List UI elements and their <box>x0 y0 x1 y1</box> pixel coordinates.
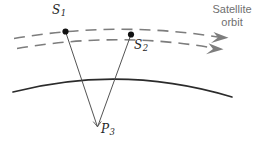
satellite-orbit-caption-line-2: orbit <box>200 16 264 29</box>
satellite-1-label: S1 <box>52 4 66 19</box>
satellite-2-marker <box>128 31 134 37</box>
upper-orbit-arrowhead <box>211 32 229 43</box>
ground-point-symbol: P <box>101 122 109 136</box>
satellite-1-subscript: 1 <box>60 8 66 18</box>
ground-point-label: P3 <box>101 123 115 138</box>
satellite-orbit-caption-line-1: Satellite <box>200 3 264 16</box>
satellite-1-marker <box>62 28 68 34</box>
satellite-2-symbol: S <box>134 38 142 52</box>
upper-orbit-track <box>14 29 221 38</box>
satellite-2-subscript: 2 <box>142 43 148 53</box>
satellite-orbit-caption: Satellite orbit <box>200 3 264 29</box>
satellite-1-symbol: S <box>52 3 60 17</box>
satellite-2-label: S2 <box>134 39 148 54</box>
line-of-sight-s2-p3 <box>98 35 132 128</box>
lower-orbit-arrowhead <box>206 43 224 54</box>
satellite-orbit-figure: S1 S2 P3 Satellite orbit <box>0 0 271 145</box>
earth-surface-arc <box>13 79 232 97</box>
lower-orbit-track <box>17 40 216 49</box>
ground-point-subscript: 3 <box>109 127 115 137</box>
